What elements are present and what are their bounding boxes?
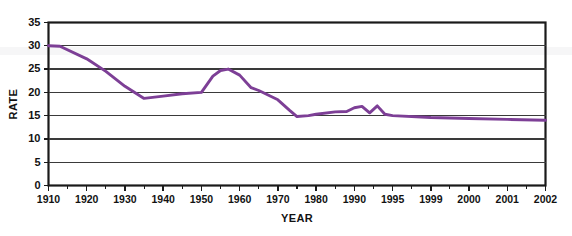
y-tick-label-15: 15 xyxy=(28,109,40,121)
data-series-group xyxy=(49,46,546,121)
chart-canvas: 05101520253035 1910192019301940195019601… xyxy=(0,0,572,236)
y-tick-label-35: 35 xyxy=(28,16,40,28)
y-tick-label-30: 30 xyxy=(28,39,40,51)
x-tick-label-1995: 1995 xyxy=(381,193,405,205)
x-tick-label-2002: 2002 xyxy=(534,193,558,205)
x-axis-title: YEAR xyxy=(281,212,313,224)
x-tick-label-1990: 1990 xyxy=(343,193,367,205)
y-tick-label-5: 5 xyxy=(34,156,40,168)
gridlines-group xyxy=(49,46,546,162)
x-tick-label-1920: 1920 xyxy=(75,193,99,205)
y-tick-label-25: 25 xyxy=(28,62,40,74)
x-tick-label-1960: 1960 xyxy=(228,193,252,205)
x-tick-label-1999: 1999 xyxy=(419,193,443,205)
x-tick-label-2000: 2000 xyxy=(457,193,481,205)
line-chart: 05101520253035 1910192019301940195019601… xyxy=(0,0,572,236)
y-tick-label-10: 10 xyxy=(28,132,40,144)
scan-artifact-band xyxy=(0,47,572,55)
x-tick-label-1970: 1970 xyxy=(266,193,290,205)
x-tick-label-1910: 1910 xyxy=(37,193,61,205)
x-tick-label-1950: 1950 xyxy=(190,193,214,205)
y-axis-labels-group: 05101520253035 xyxy=(28,16,40,191)
x-tick-label-1980: 1980 xyxy=(304,193,328,205)
x-tick-label-2001: 2001 xyxy=(496,193,520,205)
y-axis-title: RATE xyxy=(7,89,19,120)
x-tick-label-1940: 1940 xyxy=(152,193,176,205)
y-tick-label-20: 20 xyxy=(28,86,40,98)
x-tick-label-1930: 1930 xyxy=(113,193,137,205)
x-axis-labels-group: 1910192019301940195019601970198019901995… xyxy=(37,193,558,205)
plot-area-border xyxy=(49,23,546,186)
y-tick-label-0: 0 xyxy=(34,179,40,191)
series-line-rate xyxy=(49,46,546,121)
